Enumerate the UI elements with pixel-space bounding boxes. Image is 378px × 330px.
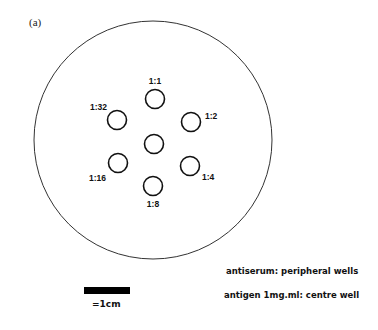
well-1-2	[182, 113, 201, 132]
well-1-4	[181, 157, 200, 176]
well-1-8	[144, 177, 163, 196]
well-1-1	[146, 90, 165, 109]
legend-antigen: antigen 1mg.ml: centre well	[224, 290, 359, 300]
scale-bar	[84, 287, 130, 294]
well-label: 1:4	[202, 172, 215, 182]
center-well	[145, 135, 164, 154]
legend-antiserum: antiserum: peripheral wells	[226, 266, 358, 276]
panel-label: (a)	[29, 16, 42, 29]
well-label: 1:8	[147, 199, 160, 209]
well-label: 1:16	[89, 173, 106, 183]
well-label: 1:1	[149, 76, 162, 86]
agar-plate-outline	[34, 21, 272, 259]
immunodiffusion-diagram: (a) 1:11:21:41:81:161:32 antiserum: peri…	[0, 0, 378, 330]
peripheral-wells: 1:11:21:41:81:161:32	[89, 76, 218, 209]
scale-bar-label: =1cm	[92, 299, 121, 309]
well-1-32	[108, 111, 127, 130]
well-label: 1:2	[205, 111, 218, 121]
well-label: 1:32	[90, 102, 107, 112]
well-1-16	[109, 154, 128, 173]
